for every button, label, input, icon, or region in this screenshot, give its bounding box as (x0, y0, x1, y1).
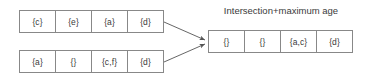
diagram-canvas: Intersection+maximum age {c} {e} {a} {d}… (0, 0, 369, 82)
arrow-from-bottom-vector (164, 44, 205, 62)
result-vector-cell-2: {a,c} (281, 31, 317, 52)
bottom-vector-cell-1: {} (56, 51, 92, 72)
bottom-vector-cell-3: {d} (128, 51, 163, 72)
arrow-from-top-vector (164, 22, 205, 40)
result-vector-cell-1: {} (245, 31, 281, 52)
result-vector: {} {} {a,c} {d} (208, 30, 353, 53)
top-vector: {c} {e} {a} {d} (19, 10, 164, 33)
top-vector-cell-2: {a} (92, 11, 128, 32)
top-vector-cell-0: {c} (20, 11, 56, 32)
diagram-title: Intersection+maximum age (196, 5, 366, 16)
bottom-vector: {a} {} {c,f} {d} (19, 50, 164, 73)
bottom-vector-cell-2: {c,f} (92, 51, 128, 72)
top-vector-cell-3: {d} (128, 11, 163, 32)
result-vector-cell-3: {d} (317, 31, 352, 52)
top-vector-cell-1: {e} (56, 11, 92, 32)
result-vector-cell-0: {} (209, 31, 245, 52)
bottom-vector-cell-0: {a} (20, 51, 56, 72)
